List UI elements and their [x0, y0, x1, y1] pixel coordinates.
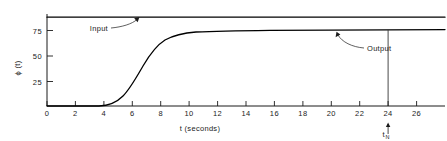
chart-canvas: 75 50 25 ϕ (t) 0 2 4 6 8 10 12 — [0, 0, 447, 141]
x-tick-label-8: 8 — [158, 109, 163, 118]
y-axis-title: ϕ (t) — [13, 60, 22, 75]
chart-figure: 75 50 25 ϕ (t) 0 2 4 6 8 10 12 — [0, 0, 447, 141]
output-leader — [336, 32, 364, 48]
x-tick-label-0: 0 — [45, 109, 50, 118]
x-tick-label-18: 18 — [298, 109, 307, 118]
tn-label-subscript: N — [386, 134, 390, 140]
x-tick-label-6: 6 — [130, 109, 135, 118]
output-annotation-label: Output — [367, 44, 392, 53]
x-tick-label-20: 20 — [327, 109, 336, 118]
tn-arrow-icon — [386, 123, 390, 135]
y-axis-ticks — [47, 31, 53, 82]
x-tick-label-10: 10 — [185, 109, 194, 118]
x-tick-label-12: 12 — [213, 109, 222, 118]
x-tick-label-14: 14 — [241, 109, 250, 118]
x-tick-label-24: 24 — [384, 109, 393, 118]
x-tick-label-16: 16 — [270, 109, 279, 118]
y-tick-label-25: 25 — [33, 78, 42, 87]
x-tick-label-2: 2 — [73, 109, 78, 118]
x-tick-label-22: 22 — [355, 109, 364, 118]
y-tick-label-75: 75 — [33, 27, 42, 36]
x-tick-label-4: 4 — [102, 109, 107, 118]
x-tick-label-26: 26 — [412, 109, 421, 118]
output-series-curve — [47, 30, 445, 106]
x-axis-title: t (seconds) — [180, 124, 221, 133]
input-leader — [111, 17, 140, 28]
y-tick-label-50: 50 — [33, 52, 42, 61]
input-annotation-label: Input — [90, 24, 109, 33]
